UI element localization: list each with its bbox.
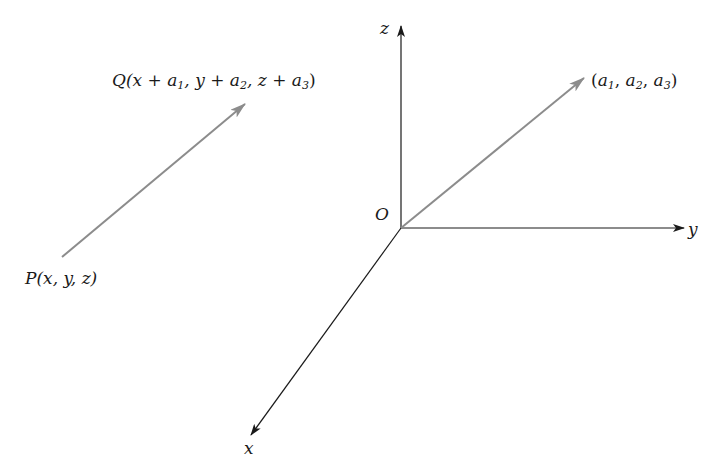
x-axis	[251, 228, 401, 435]
subscript-2: 2	[636, 79, 643, 92]
q-component-a1: a	[167, 70, 177, 90]
component-a2: a	[626, 70, 636, 90]
point-p-label: P(x, y, z)	[25, 270, 97, 287]
point-q-label: Q(x + a1, y + a2, z + a3)	[112, 72, 316, 89]
subscript-2: 2	[240, 79, 247, 92]
q-component-a3: a	[292, 70, 302, 90]
component-a1: a	[598, 70, 608, 90]
position-vector-tip-label: (a1, a2, a3)	[591, 72, 677, 89]
z-axis-label: z	[380, 20, 389, 37]
q-coord-part: (x +	[126, 70, 167, 90]
comma: ,	[643, 70, 654, 90]
point-p-coords: (x, y, z)	[36, 268, 97, 288]
q-coord-part: , y +	[184, 70, 229, 90]
paren-open: (	[591, 70, 598, 90]
subscript-3: 3	[664, 79, 671, 92]
subscript-1: 1	[608, 79, 615, 92]
position-vector-arrow	[401, 78, 584, 228]
q-coord-part: , z +	[247, 70, 292, 90]
diagram-canvas	[0, 0, 721, 471]
comma: ,	[615, 70, 626, 90]
subscript-3: 3	[302, 79, 309, 92]
component-a3: a	[654, 70, 664, 90]
translated-vector-arrow	[62, 104, 245, 257]
y-axis-label: y	[688, 221, 698, 238]
paren-close: )	[309, 70, 316, 90]
origin-label: O	[375, 206, 389, 223]
x-axis-label: x	[244, 440, 254, 457]
paren-close: )	[671, 70, 678, 90]
q-component-a2: a	[230, 70, 240, 90]
point-q-name: Q	[112, 70, 126, 90]
point-p-name: P	[25, 268, 36, 288]
